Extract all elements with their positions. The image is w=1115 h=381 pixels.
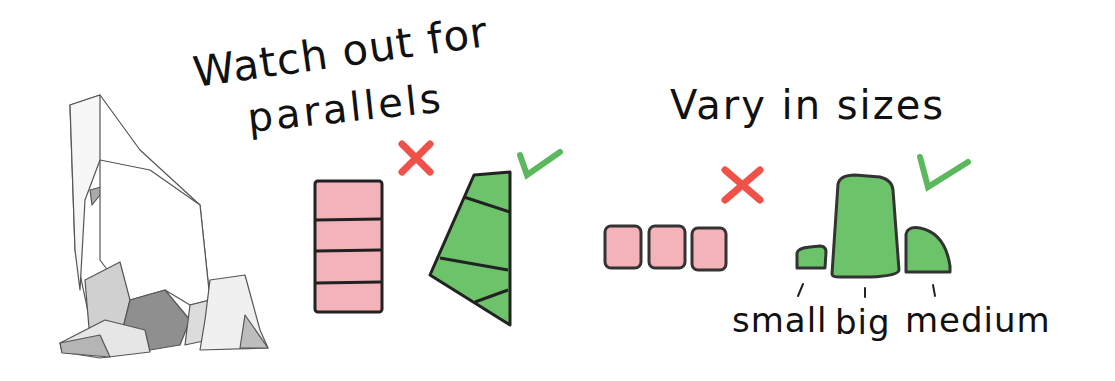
cross-icon bbox=[402, 144, 430, 172]
bad-equal-squares bbox=[605, 226, 726, 270]
label-pointers bbox=[798, 284, 935, 297]
title-sizes: Vary in sizes bbox=[670, 82, 945, 128]
label-small: small bbox=[732, 300, 828, 340]
check-icon bbox=[520, 152, 560, 175]
label-medium: medium bbox=[905, 300, 1051, 340]
medium-shape bbox=[906, 228, 950, 272]
rock-illustration bbox=[60, 95, 268, 358]
small-shape bbox=[797, 246, 826, 268]
check-icon bbox=[920, 157, 968, 187]
label-big: big bbox=[835, 302, 891, 342]
bad-parallel-rectangles bbox=[315, 181, 382, 312]
cross-icon bbox=[725, 170, 760, 200]
good-varied-polygon bbox=[430, 172, 510, 325]
big-shape bbox=[832, 175, 899, 277]
